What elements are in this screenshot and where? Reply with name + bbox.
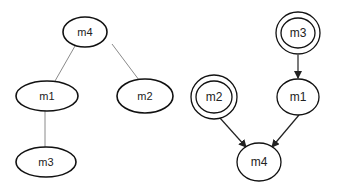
tree-node-m2[interactable]: m2 — [117, 79, 173, 113]
graph-node-m1[interactable]: m1 — [277, 79, 319, 115]
diagram-canvas: m4 m1 m2 m3 m3 m1 m2 — [0, 0, 337, 190]
node-label: m1 — [290, 90, 307, 104]
graph-node-m2[interactable]: m2 — [191, 75, 237, 119]
graph-node-m3[interactable]: m3 — [276, 12, 320, 54]
right-graph: m3 m1 m2 m4 — [191, 12, 320, 181]
node-label: m2 — [206, 90, 223, 104]
node-label: m1 — [39, 90, 54, 102]
node-label: m4 — [251, 155, 268, 169]
node-label: m3 — [38, 156, 53, 168]
arrow-m1-m4 — [272, 115, 299, 147]
tree-node-m4[interactable]: m4 — [63, 17, 107, 47]
tree-node-m1[interactable]: m1 — [16, 81, 78, 111]
left-tree: m4 m1 m2 m3 — [16, 17, 173, 177]
node-label: m4 — [77, 26, 92, 38]
edge-m4-m1 — [55, 46, 75, 81]
tree-node-m3[interactable]: m3 — [16, 147, 76, 177]
graph-node-m4[interactable]: m4 — [237, 143, 281, 181]
node-label: m2 — [137, 90, 152, 102]
edge-m4-m2 — [112, 44, 139, 80]
node-label: m3 — [290, 26, 307, 40]
arrow-m2-m4 — [220, 118, 246, 147]
